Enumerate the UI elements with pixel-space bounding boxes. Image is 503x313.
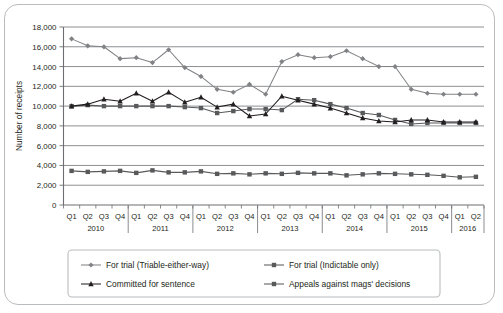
series-point (102, 169, 106, 173)
series-point (199, 169, 203, 173)
x-tick-label-year: 2013 (281, 224, 298, 233)
series-point (231, 109, 235, 113)
marker-square (361, 111, 365, 115)
series-point (279, 93, 284, 98)
y-tick-label: 2,000 (37, 181, 57, 190)
series-point (198, 94, 203, 99)
series-point (150, 98, 155, 103)
series-point (118, 104, 122, 108)
x-tick-label-quarter: Q3 (358, 212, 368, 221)
marker-square (344, 173, 348, 177)
series-point (441, 92, 446, 97)
marker-square (377, 113, 381, 117)
legend-swatch-marker (272, 263, 276, 267)
marker-square (102, 104, 106, 108)
marker-square (150, 104, 154, 108)
y-tick-label: 0 (52, 201, 57, 210)
marker-square (199, 106, 203, 110)
y-tick-label: 14,000 (32, 63, 57, 72)
series-point (361, 172, 365, 176)
marker-square (166, 170, 170, 174)
legend-label: For trial (Triable-either-way) (106, 260, 209, 270)
marker-diamond (85, 43, 90, 48)
series-point (344, 48, 349, 53)
marker-diamond (134, 55, 139, 60)
x-tick-label-quarter: Q4 (244, 212, 254, 221)
marker-square (272, 282, 276, 286)
series-point (377, 113, 381, 117)
marker-triangle (166, 89, 171, 94)
marker-square (69, 169, 73, 173)
x-tick-label-quarter: Q2 (471, 212, 481, 221)
line-chart: 02,0004,0006,0008,00010,00012,00014,0001… (0, 0, 503, 313)
marker-diamond (344, 48, 349, 53)
series-point (280, 108, 284, 112)
series-point (263, 171, 267, 175)
marker-diamond (376, 64, 381, 69)
series-point (150, 168, 154, 172)
series-point (231, 171, 235, 175)
marker-diamond (457, 92, 462, 97)
x-tick-label-year: 2016 (459, 224, 476, 233)
series-point (69, 36, 74, 41)
marker-triangle (150, 98, 155, 103)
series-point (328, 54, 333, 59)
marker-triangle (101, 96, 106, 101)
marker-square (361, 172, 365, 176)
series-point (263, 107, 267, 111)
x-tick-label-quarter: Q1 (325, 212, 335, 221)
x-tick-label-quarter: Q2 (212, 212, 222, 221)
series-point (280, 172, 284, 176)
series-point (215, 172, 219, 176)
x-tick-label-quarter: Q2 (83, 212, 93, 221)
x-tick-label-quarter: Q2 (147, 212, 157, 221)
x-tick-label-quarter: Q3 (164, 212, 174, 221)
marker-diamond (441, 92, 446, 97)
series-point (393, 172, 397, 176)
x-tick-label-quarter: Q4 (115, 212, 125, 221)
series-point (296, 171, 300, 175)
legend-entry-1: For trial (Indictable only) (264, 260, 379, 270)
series-2 (69, 89, 479, 124)
marker-square (458, 175, 462, 179)
series-point (183, 105, 187, 109)
x-tick-label-quarter: Q1 (390, 212, 400, 221)
series-point (134, 90, 139, 95)
x-tick-label-year: 2010 (87, 224, 104, 233)
marker-diamond (473, 92, 478, 97)
marker-square (296, 171, 300, 175)
series-point (247, 172, 251, 176)
marker-square (280, 172, 284, 176)
marker-square (425, 173, 429, 177)
marker-diamond (69, 36, 74, 41)
marker-square (215, 172, 219, 176)
x-tick-label-year: 2014 (346, 224, 363, 233)
marker-square (409, 122, 413, 126)
x-tick-label-year: 2015 (411, 224, 428, 233)
x-tick-label-year: 2012 (217, 224, 234, 233)
series-point (409, 172, 413, 176)
legend-label: Appeals against mags' decisions (289, 279, 410, 289)
series-point (231, 90, 236, 95)
chart-canvas: 02,0004,0006,0008,00010,00012,00014,0001… (0, 0, 503, 313)
series-point (425, 173, 429, 177)
y-tick-label: 18,000 (32, 23, 57, 32)
marker-diamond (328, 54, 333, 59)
x-tick-label-quarter: Q2 (406, 212, 416, 221)
marker-triangle (198, 94, 203, 99)
x-tick-label-quarter: Q4 (374, 212, 384, 221)
marker-diamond (312, 55, 317, 60)
marker-square (344, 106, 348, 110)
marker-square (231, 171, 235, 175)
marker-triangle (231, 101, 236, 106)
legend-swatch-marker (272, 282, 276, 286)
series-point (199, 106, 203, 110)
marker-square (118, 104, 122, 108)
legend-label: Committed for sentence (106, 279, 195, 289)
series-point (166, 89, 171, 94)
series-1 (69, 97, 478, 126)
marker-square (393, 172, 397, 176)
legend-swatch-marker (88, 262, 93, 267)
legend-entry-3: Appeals against mags' decisions (264, 279, 410, 289)
marker-square (263, 171, 267, 175)
